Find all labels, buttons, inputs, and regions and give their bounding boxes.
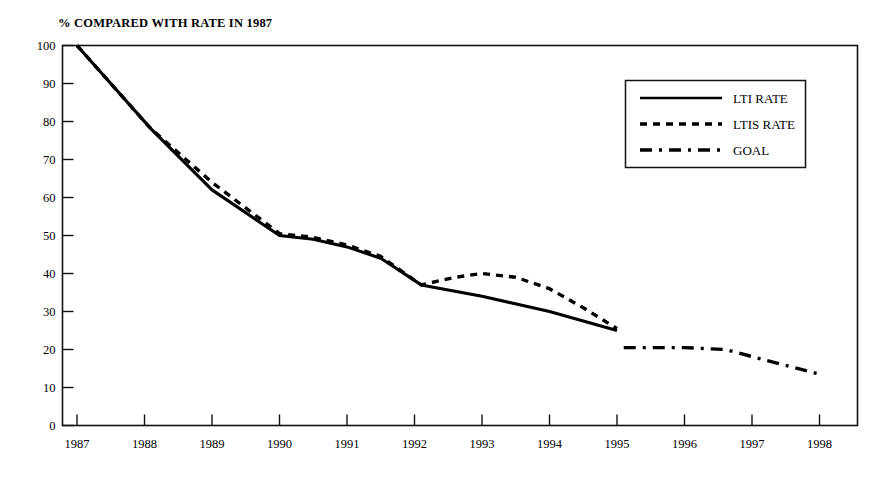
y-tick-label-100: 100 bbox=[37, 39, 56, 53]
x-tick-label-1988: 1988 bbox=[132, 437, 157, 451]
y-tick-label-20: 20 bbox=[43, 343, 56, 357]
x-axis-ticks bbox=[77, 415, 820, 426]
y-tick-label-60: 60 bbox=[43, 191, 56, 205]
y-tick-label-10: 10 bbox=[43, 381, 56, 395]
chart-legend: LTI RATE LTIS RATE GOAL bbox=[626, 81, 806, 168]
y-tick-label-0: 0 bbox=[49, 419, 55, 433]
y-tick-label-50: 50 bbox=[43, 229, 56, 243]
series-lti-rate bbox=[77, 46, 617, 331]
legend-label-ltis-rate: LTIS RATE bbox=[733, 117, 795, 132]
x-tick-label-1998: 1998 bbox=[807, 437, 832, 451]
x-tick-label-1989: 1989 bbox=[200, 437, 225, 451]
x-tick-label-1994: 1994 bbox=[537, 437, 563, 451]
y-axis-labels: 0102030405060708090100 bbox=[37, 39, 56, 433]
y-axis-ticks bbox=[63, 46, 74, 426]
legend-label-goal: GOAL bbox=[733, 143, 769, 158]
y-tick-label-30: 30 bbox=[43, 305, 56, 319]
x-tick-label-1993: 1993 bbox=[470, 437, 495, 451]
x-tick-label-1996: 1996 bbox=[672, 437, 697, 451]
y-tick-label-70: 70 bbox=[43, 153, 56, 167]
y-tick-label-80: 80 bbox=[43, 115, 56, 129]
series-goal bbox=[624, 348, 820, 375]
x-axis-labels: 1987198819891990199119921993199419951996… bbox=[65, 437, 833, 451]
x-tick-label-1995: 1995 bbox=[605, 437, 630, 451]
chart-plot-area: 0102030405060708090100 19871988198919901… bbox=[0, 0, 890, 480]
line-chart: % COMPARED WITH RATE IN 1987 01020304050… bbox=[0, 0, 890, 480]
y-tick-label-40: 40 bbox=[43, 267, 56, 281]
y-tick-label-90: 90 bbox=[43, 77, 56, 91]
x-tick-label-1991: 1991 bbox=[335, 437, 360, 451]
legend-label-lti-rate: LTI RATE bbox=[733, 91, 788, 106]
x-tick-label-1990: 1990 bbox=[267, 437, 292, 451]
x-tick-label-1987: 1987 bbox=[65, 437, 90, 451]
x-tick-label-1997: 1997 bbox=[740, 437, 765, 451]
series-ltis-rate bbox=[77, 46, 617, 329]
x-tick-label-1992: 1992 bbox=[402, 437, 427, 451]
